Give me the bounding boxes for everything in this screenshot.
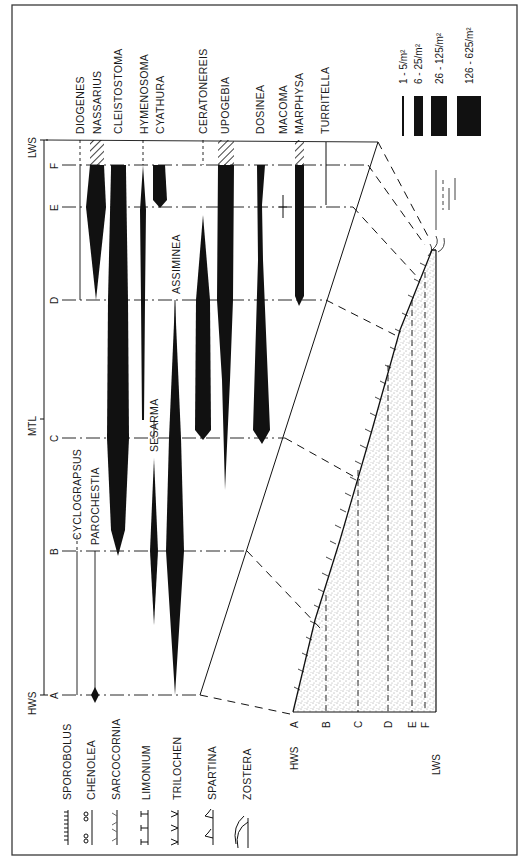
veg-label-sarcocornia: SARCOCORNIA	[110, 719, 122, 800]
zonation-diagram: LWS MTL HWS F E D C B A	[0, 0, 523, 866]
species-label-cleistostoma: CLEISTOSTOMA	[112, 49, 124, 134]
density-label-1: 1 - 5/m²	[398, 49, 409, 84]
veg-label-sporobolus: SPOROBOLUS	[61, 723, 73, 800]
species-label-hymenosoma: HYMENOSOMA	[138, 54, 150, 134]
upper-species-labels: DIOGENES NASSARIUS CLEISTOSTOMA HYMENOSO…	[74, 49, 331, 134]
veg-label-spartina: SPARTINA	[206, 746, 218, 800]
lws-axis-label: LWS	[27, 137, 38, 158]
veg-label-chenolea: CHENOLEA	[85, 740, 97, 800]
veg-label-limonium: LIMONIUM	[140, 745, 152, 800]
sporobolus-icon	[64, 810, 68, 845]
zone-label-d: D	[49, 297, 60, 304]
density-bar-1	[402, 96, 404, 136]
density-label-2: 6 - 25/m²	[413, 43, 424, 84]
density-label-4: 126 - 625/m²	[464, 27, 475, 84]
mtl-axis-label: MTL	[27, 416, 38, 436]
species-label-macoma: MACOMA	[277, 85, 289, 134]
profile-zone-c: C	[353, 721, 364, 728]
zone-label-b: B	[49, 548, 60, 555]
species-label-parochestia: PAROCHESTIA	[89, 467, 101, 545]
profile-zone-e: E	[407, 721, 418, 728]
spartina-icon	[205, 809, 213, 845]
species-label-ceratonereis: CERATONEREIS	[197, 49, 209, 134]
zone-label-f: F	[49, 163, 60, 169]
density-legend: 1 - 5/m² 6 - 25/m² 26 - 125/m² 126 - 625…	[398, 27, 481, 136]
profile-zone-d: D	[383, 721, 394, 728]
species-label-assiminea: ASSIMINEA	[170, 234, 182, 294]
density-bar-2	[414, 96, 423, 136]
species-label-cyathura: CYATHURA	[154, 75, 166, 134]
density-label-3: 26 - 125/m²	[434, 32, 445, 84]
trilochen-icon	[171, 810, 178, 845]
profile-zone-a: A	[289, 721, 300, 728]
profile-hws-label: HWS	[289, 746, 300, 770]
species-label-turritella: TURRITELLA	[319, 67, 331, 134]
species-label-marphysa: MARPHYSA	[293, 73, 305, 134]
zone-label-a: A	[49, 692, 60, 699]
limonium-icon	[141, 810, 148, 845]
veg-label-trilochen: TRILOCHEN	[171, 737, 183, 800]
species-label-sesarma: SESARMA	[148, 399, 160, 452]
hws-axis-label: HWS	[27, 691, 38, 715]
profile-zone-b: B	[321, 721, 332, 728]
species-label-diogenes: DIOGENES	[74, 76, 86, 134]
zostera-icon	[235, 816, 248, 848]
species-bars	[77, 140, 326, 703]
species-label-dosinea: DOSINEA	[254, 85, 266, 134]
profile-zone-f: F	[420, 722, 431, 728]
zone-label-e: E	[49, 204, 60, 211]
tide-axis	[40, 140, 48, 695]
density-bar-4	[457, 96, 481, 136]
chenolea-icon	[84, 810, 92, 845]
profile-lws-label: LWS	[431, 754, 442, 775]
zone-label-c: C	[49, 435, 60, 442]
density-bar-3	[431, 96, 447, 136]
species-label-nassarius: NASSARIUS	[91, 71, 103, 134]
sarcocornia-icon	[112, 810, 117, 845]
beach-profile: A B C D E F HWS LWS	[289, 170, 455, 775]
veg-label-zostera: ZOSTERA	[241, 748, 253, 800]
species-label-cyclograpsus: CYCLOGRAPSUS	[71, 449, 83, 540]
species-label-upogebia: UPOGEBIA	[219, 77, 231, 134]
vegetation-legend: SPOROBOLUS CHENOLEA SARCOCORNIA LIMONIUM…	[61, 719, 253, 848]
